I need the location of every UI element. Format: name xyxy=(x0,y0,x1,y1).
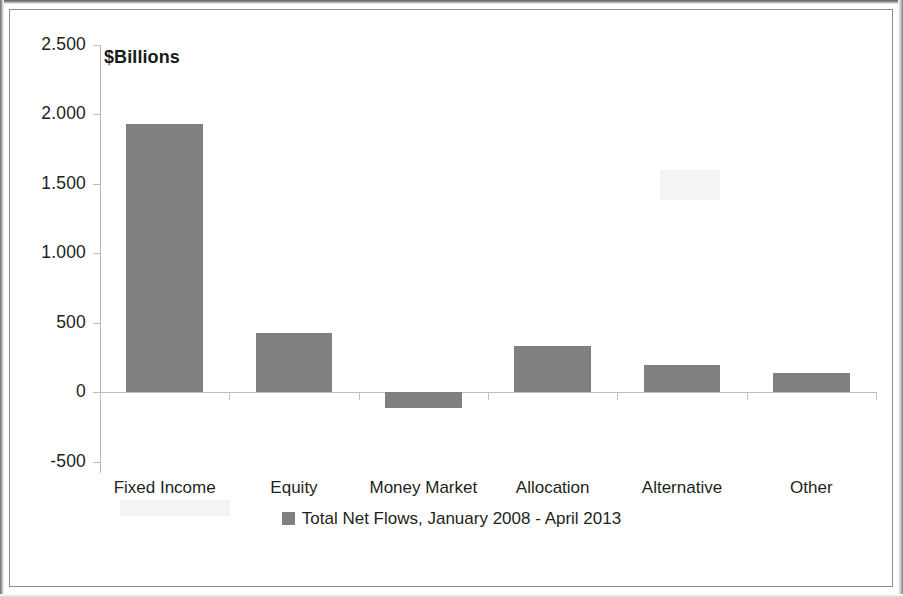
x-axis-tick xyxy=(100,392,101,400)
bar-equity[interactable] xyxy=(256,333,333,392)
bar-allocation[interactable] xyxy=(514,346,591,392)
x-axis-tick xyxy=(617,392,618,400)
x-axis-tick xyxy=(747,392,748,400)
x-axis-tick xyxy=(229,392,230,400)
y-axis-title: $Billions xyxy=(104,47,180,68)
chart-page: $Billions -50005001.0001.5002.0002.500 F… xyxy=(0,0,903,597)
category-label-fixed-income: Fixed Income xyxy=(100,479,229,496)
category-label-equity: Equity xyxy=(229,479,358,496)
category-label-other: Other xyxy=(747,479,876,496)
chart-legend: Total Net Flows, January 2008 - April 20… xyxy=(0,510,903,527)
x-axis-tick xyxy=(876,392,877,400)
y-axis-tick xyxy=(93,184,100,185)
bar-other[interactable] xyxy=(773,373,850,392)
y-axis-tick xyxy=(93,45,100,46)
y-axis-tick xyxy=(93,114,100,115)
x-axis-tick xyxy=(359,392,360,400)
y-axis-tick xyxy=(93,323,100,324)
y-axis-tick-label: -500 xyxy=(10,453,86,471)
y-axis-tick-label: 2.500 xyxy=(10,36,86,54)
plot-area: $Billions -50005001.0001.5002.0002.500 F… xyxy=(0,0,903,597)
y-axis-tick-label: 1.000 xyxy=(10,244,86,262)
y-axis-tick-label: 1.500 xyxy=(10,175,86,193)
x-axis-tick xyxy=(488,392,489,400)
bar-fixed-income[interactable] xyxy=(126,124,203,392)
y-axis-tick-label: 0 xyxy=(10,383,86,401)
category-label-alternative: Alternative xyxy=(617,479,746,496)
category-label-money-market: Money Market xyxy=(359,479,488,496)
y-axis-tick-label: 2.000 xyxy=(10,105,86,123)
y-axis-tick-label: 500 xyxy=(10,314,86,332)
y-axis-tick xyxy=(93,253,100,254)
category-label-allocation: Allocation xyxy=(488,479,617,496)
y-axis-tick xyxy=(93,462,100,463)
legend-swatch xyxy=(282,512,295,525)
y-axis-tick xyxy=(93,392,100,393)
bar-alternative[interactable] xyxy=(644,365,721,392)
legend-label: Total Net Flows, January 2008 - April 20… xyxy=(302,510,621,527)
y-axis-line xyxy=(100,45,101,473)
bar-money-market[interactable] xyxy=(385,392,462,408)
